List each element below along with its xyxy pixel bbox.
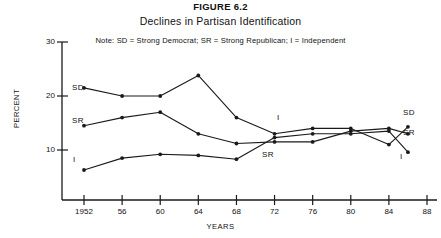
data-point [273, 136, 277, 140]
data-point [196, 132, 200, 136]
y-tick-label: 20 [29, 91, 55, 100]
x-tick-label: 1952 [64, 207, 104, 216]
data-point [273, 132, 277, 136]
data-point [196, 154, 200, 158]
series-label-sr-right: SR [403, 128, 415, 137]
data-point [387, 129, 391, 133]
series-line-sr [84, 112, 408, 143]
series-label-sd-right: SD [403, 108, 415, 117]
series-label-sr-mid: SR [262, 150, 274, 159]
data-point [311, 126, 315, 130]
x-tick-label: 76 [293, 207, 333, 216]
x-tick-label: 80 [331, 207, 371, 216]
data-point [158, 152, 162, 156]
data-point [406, 150, 410, 154]
data-point [120, 94, 124, 98]
data-point [311, 140, 315, 144]
y-tick-label: 10 [29, 145, 55, 154]
x-tick-label: 88 [407, 207, 441, 216]
series-label-sd-left: SD [72, 83, 84, 92]
series-line-sd [84, 75, 408, 144]
data-point [273, 140, 277, 144]
line-chart-plot [0, 0, 441, 238]
data-point [387, 143, 391, 147]
series-label-i-right: I [400, 152, 403, 161]
data-point [120, 116, 124, 120]
x-tick-label: 84 [369, 207, 409, 216]
data-point [235, 157, 239, 161]
data-point [82, 168, 86, 172]
x-tick-label: 68 [216, 207, 256, 216]
data-point [196, 74, 200, 78]
series-line-i [84, 131, 408, 170]
series-label-sr-left: SR [72, 116, 84, 125]
x-tick-label: 64 [178, 207, 218, 216]
data-point [349, 132, 353, 136]
data-point [235, 116, 239, 120]
data-point [311, 132, 315, 136]
x-axis-title: YEARS [0, 222, 441, 231]
data-point [158, 94, 162, 98]
x-tick-label: 60 [140, 207, 180, 216]
y-tick-label: 30 [29, 37, 55, 46]
data-point [235, 142, 239, 146]
y-axis-title: PERCENT [12, 79, 21, 139]
x-tick-label: 56 [102, 207, 142, 216]
series-label-i-mid: I [277, 113, 280, 122]
data-series-group [84, 75, 408, 169]
series-label-i-left: I [73, 155, 76, 164]
figure-container: FIGURE 6.2 Declines in Partisan Identifi… [0, 0, 441, 238]
data-point [120, 156, 124, 160]
data-point [158, 110, 162, 114]
x-tick-label: 72 [255, 207, 295, 216]
